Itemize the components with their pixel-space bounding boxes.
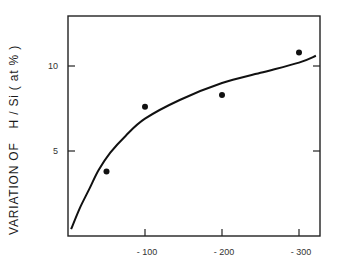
y-axis-title: VARIATION OFH / Si ( at % ) xyxy=(7,45,21,235)
x-axis-ticks: - 100- 200- 300 xyxy=(137,229,312,257)
data-point xyxy=(296,49,302,55)
y-axis-ticks: 510 xyxy=(48,61,320,156)
x-tick-label: - 100 xyxy=(137,247,158,257)
chart-plot: 510 - 100- 200- 300 xyxy=(0,0,338,278)
y-tick-label: 5 xyxy=(53,146,58,156)
data-point xyxy=(142,104,148,110)
y-axis-title-part1: VARIATION OF xyxy=(7,142,21,235)
y-axis-title-part2: H / Si ( at % ) xyxy=(7,45,21,128)
fit-curve xyxy=(71,56,316,229)
plot-frame xyxy=(68,16,320,236)
x-tick-label: - 300 xyxy=(291,247,312,257)
data-points xyxy=(104,49,303,174)
data-point xyxy=(219,92,225,98)
x-tick-label: - 200 xyxy=(214,247,235,257)
data-point xyxy=(104,168,110,174)
y-tick-label: 10 xyxy=(48,61,58,71)
